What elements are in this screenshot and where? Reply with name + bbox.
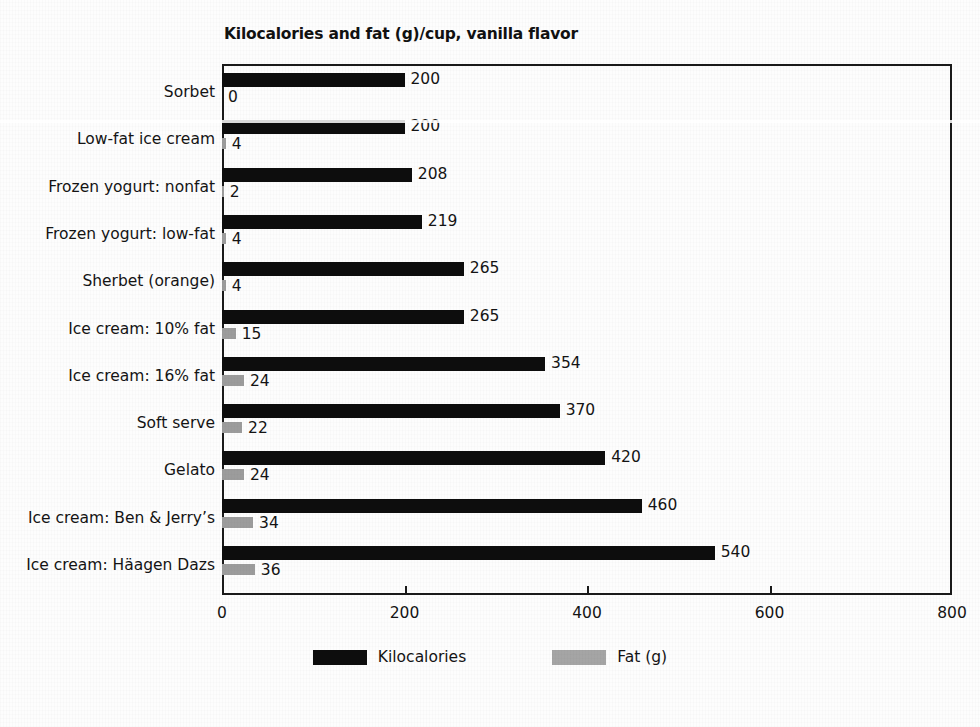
x-axis-tick: [587, 586, 589, 595]
kilocalories-value-label: 265: [470, 261, 500, 277]
bar-group: 2194: [222, 215, 952, 247]
x-axis-tick-label: 400: [572, 604, 602, 622]
kilocalories-bar: [222, 73, 405, 87]
kilocalories-bar: [222, 120, 405, 134]
kilocalories-bar: [222, 499, 642, 513]
bar-group: 26515: [222, 310, 952, 342]
bar-group: 2004: [222, 120, 952, 152]
legend-item: Fat (g): [552, 648, 667, 666]
kilocalories-bar: [222, 404, 560, 418]
kilocalories-value-label: 420: [611, 450, 641, 466]
fat-bar: [222, 422, 242, 433]
category-label: Sherbet (orange): [0, 272, 215, 290]
x-axis-tick: [405, 586, 407, 595]
fat-bar: [222, 328, 236, 339]
kilocalories-value-label: 460: [648, 498, 678, 514]
fat-value-label: 24: [250, 374, 270, 390]
fat-bar: [222, 233, 226, 244]
fat-value-label: 2: [230, 185, 240, 201]
category-label: Gelato: [0, 461, 215, 479]
category-label: Frozen yogurt: nonfat: [0, 178, 215, 196]
category-label: Soft serve: [0, 414, 215, 432]
bar-chart: Kilocalories and fat (g)/cup, vanilla fl…: [0, 0, 980, 727]
bar-group: 54036: [222, 546, 952, 578]
fat-value-label: 36: [261, 563, 281, 579]
kilocalories-value-label: 540: [721, 545, 751, 561]
category-label: Ice cream: 10% fat: [0, 320, 215, 338]
x-axis-tick-label: 0: [217, 604, 227, 622]
kilocalories-value-label: 200: [411, 72, 441, 88]
fat-value-label: 4: [232, 137, 242, 153]
bar-group: 37022: [222, 404, 952, 436]
legend-swatch-kilocalories: [313, 650, 367, 665]
kilocalories-bar: [222, 310, 464, 324]
fat-value-label: 4: [232, 279, 242, 295]
x-axis-tick: [770, 586, 772, 595]
legend-label: Kilocalories: [378, 648, 466, 666]
plot-area: 2000200420822194265426515354243702242024…: [222, 64, 952, 595]
kilocalories-bar: [222, 168, 412, 182]
bar-group: 2000: [222, 73, 952, 105]
category-label: Frozen yogurt: low-fat: [0, 225, 215, 243]
kilocalories-value-label: 219: [428, 214, 458, 230]
kilocalories-value-label: 208: [418, 167, 448, 183]
legend-swatch-fat: [552, 650, 606, 665]
fat-bar: [222, 375, 244, 386]
kilocalories-bar: [222, 451, 605, 465]
fat-bar: [222, 138, 226, 149]
chart-legend: KilocaloriesFat (g): [0, 648, 980, 666]
fat-bar: [222, 517, 253, 528]
kilocalories-bar: [222, 546, 715, 560]
kilocalories-value-label: 354: [551, 356, 581, 372]
kilocalories-value-label: 265: [470, 309, 500, 325]
fat-bar: [222, 564, 255, 575]
bar-group: 46034: [222, 499, 952, 531]
kilocalories-bar: [222, 262, 464, 276]
kilocalories-bar: [222, 357, 545, 371]
bar-group: 2654: [222, 262, 952, 294]
fat-value-label: 0: [228, 90, 238, 106]
legend-item: Kilocalories: [313, 648, 466, 666]
category-label: Sorbet: [0, 83, 215, 101]
kilocalories-value-label: 370: [566, 403, 596, 419]
fat-bar: [222, 186, 224, 197]
category-axis-labels: SorbetLow-fat ice creamFrozen yogurt: no…: [0, 64, 215, 595]
kilocalories-value-label: 200: [411, 119, 441, 135]
x-axis-tick-label: 600: [755, 604, 785, 622]
chart-title: Kilocalories and fat (g)/cup, vanilla fl…: [224, 25, 578, 43]
fat-bar: [222, 280, 226, 291]
fat-value-label: 4: [232, 232, 242, 248]
fat-value-label: 15: [242, 327, 262, 343]
bar-group: 2082: [222, 168, 952, 200]
bar-group: 42024: [222, 451, 952, 483]
x-axis-tick-label: 800: [937, 604, 967, 622]
x-axis-tick-label: 200: [390, 604, 420, 622]
fat-bar: [222, 469, 244, 480]
fat-value-label: 22: [248, 421, 268, 437]
legend-label: Fat (g): [617, 648, 667, 666]
fat-value-label: 24: [250, 468, 270, 484]
fat-value-label: 34: [259, 516, 279, 532]
category-label: Ice cream: Ben & Jerry’s: [0, 509, 215, 527]
kilocalories-bar: [222, 215, 422, 229]
category-label: Low-fat ice cream: [0, 130, 215, 148]
category-label: Ice cream: 16% fat: [0, 367, 215, 385]
bar-group: 35424: [222, 357, 952, 389]
category-label: Ice cream: Häagen Dazs: [0, 556, 215, 574]
